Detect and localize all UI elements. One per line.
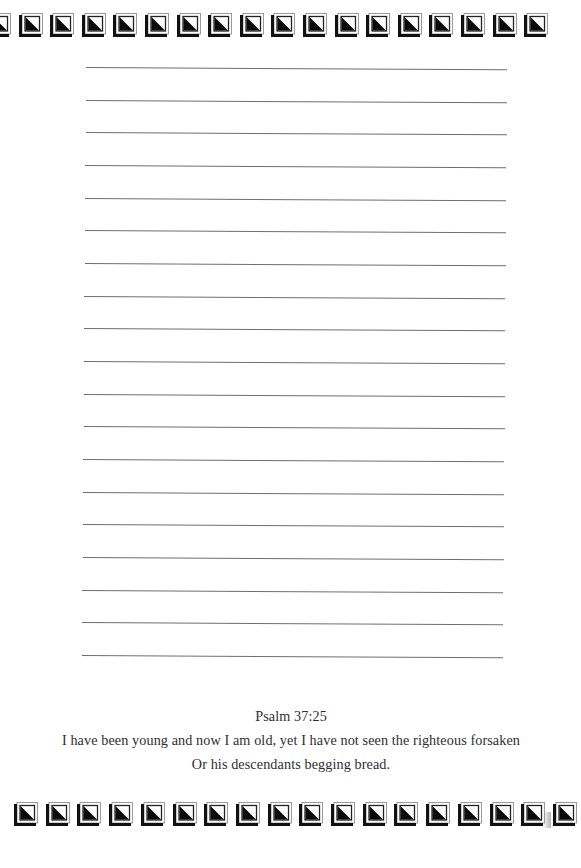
verse-text-line-1: I have been young and now I am old, yet …	[0, 728, 581, 752]
ruled-line	[84, 394, 505, 397]
border-tile-icon	[14, 802, 38, 826]
ruled-line	[86, 132, 507, 135]
ruled-line	[84, 426, 505, 429]
border-tile-icon	[204, 802, 228, 826]
border-tile-icon	[77, 802, 101, 826]
border-tile-icon	[173, 802, 197, 826]
border-tile-icon	[236, 802, 260, 826]
ruled-line	[82, 655, 503, 658]
border-tile-icon	[268, 802, 292, 826]
ruled-writing-area	[0, 0, 551, 700]
ruled-line	[85, 263, 506, 266]
bible-verse: Psalm 37:25 I have been young and now I …	[0, 704, 581, 776]
border-tile-icon	[458, 802, 482, 826]
border-tile-icon	[299, 802, 323, 826]
ruled-line	[82, 590, 503, 593]
border-tile-icon	[46, 802, 70, 826]
ruled-line	[83, 459, 504, 462]
ruled-line	[86, 100, 507, 103]
ruled-line	[85, 198, 506, 201]
page-edge-shadow	[543, 812, 551, 828]
ruled-line	[83, 557, 504, 560]
border-tile-icon	[331, 802, 355, 826]
ruled-line	[83, 524, 504, 527]
ruled-line	[84, 296, 505, 299]
verse-reference: Psalm 37:25	[0, 704, 581, 728]
ruled-line	[84, 361, 505, 364]
ruled-line	[86, 67, 507, 70]
ruled-line	[85, 230, 506, 233]
border-tile-icon	[394, 802, 418, 826]
ruled-line	[85, 165, 506, 168]
ruled-line	[83, 492, 504, 495]
border-tile-icon	[490, 802, 514, 826]
ruled-line	[84, 328, 505, 331]
bottom-decorative-border	[0, 802, 551, 828]
verse-text-line-2: Or his descendants begging bread.	[0, 752, 581, 776]
border-tile-icon	[521, 802, 545, 826]
border-tile-icon	[426, 802, 450, 826]
border-tile-icon	[109, 802, 133, 826]
border-tile-icon	[363, 802, 387, 826]
border-tile-icon	[553, 802, 577, 826]
border-tile-icon	[141, 802, 165, 826]
ruled-line	[82, 622, 503, 625]
